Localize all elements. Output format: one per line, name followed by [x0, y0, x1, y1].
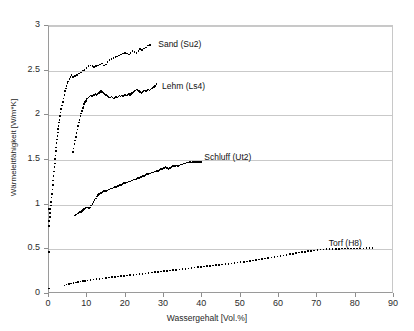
series-annotations-layer: Sand (Su2)Lehm (Ls4)Schluff (Ut2)Torf (H…: [49, 26, 392, 292]
x-tick-mark: [125, 293, 126, 297]
y-tick-label: 0.5: [10, 242, 40, 252]
x-tick-label: 10: [74, 298, 98, 308]
x-tick-label: 70: [304, 298, 328, 308]
x-tick-label: 80: [343, 298, 367, 308]
x-tick-mark: [48, 293, 49, 297]
series-label: Torf (H8): [329, 238, 362, 248]
x-tick-mark: [278, 293, 279, 297]
x-tick-mark: [355, 293, 356, 297]
y-tick-mark: [44, 204, 48, 205]
x-tick-label: 40: [189, 298, 213, 308]
y-tick-label: 0: [10, 287, 40, 297]
x-tick-mark: [316, 293, 317, 297]
x-tick-label: 30: [151, 298, 175, 308]
y-axis-title: Wärmeleitfähigkeit [W/m*K]: [9, 53, 18, 243]
series-label: Lehm (Ls4): [162, 81, 205, 91]
y-tick-mark: [44, 114, 48, 115]
x-tick-label: 20: [113, 298, 137, 308]
x-tick-mark: [201, 293, 202, 297]
chart-figure: Sand (Su2)Lehm (Ls4)Schluff (Ut2)Torf (H…: [0, 0, 414, 331]
y-tick-mark: [44, 159, 48, 160]
y-tick-label: 3: [10, 19, 40, 29]
x-tick-label: 60: [266, 298, 290, 308]
series-label: Schluff (Ut2): [204, 152, 251, 162]
x-tick-mark: [240, 293, 241, 297]
x-tick-label: 0: [36, 298, 60, 308]
x-tick-label: 90: [381, 298, 405, 308]
plot-area: Sand (Su2)Lehm (Ls4)Schluff (Ut2)Torf (H…: [48, 25, 393, 293]
x-tick-mark: [163, 293, 164, 297]
y-tick-mark: [44, 248, 48, 249]
x-tick-label: 50: [228, 298, 252, 308]
series-label: Sand (Su2): [158, 39, 201, 49]
x-tick-mark: [393, 293, 394, 297]
y-tick-mark: [44, 25, 48, 26]
y-tick-mark: [44, 70, 48, 71]
x-axis-title: Wassergehalt [Vol.%]: [0, 313, 414, 323]
x-tick-mark: [86, 293, 87, 297]
